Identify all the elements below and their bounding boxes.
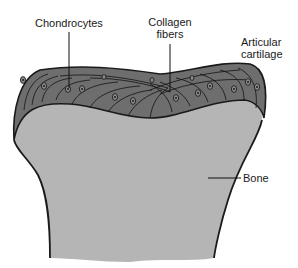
articular-label-line2: cartilage — [241, 48, 291, 60]
chondrocytes-label: Chondrocytes — [35, 17, 103, 29]
bone-label: Bone — [243, 172, 269, 184]
collagen-label-line2: fibers — [145, 28, 195, 40]
collagen-label-line1: Collagen — [145, 16, 195, 28]
articular-label-line1: Articular — [241, 36, 291, 48]
bone-shape — [14, 99, 262, 262]
collagen-fibers-label: Collagen fibers — [145, 16, 195, 40]
articular-cartilage-label: Articular cartilage — [241, 36, 291, 60]
